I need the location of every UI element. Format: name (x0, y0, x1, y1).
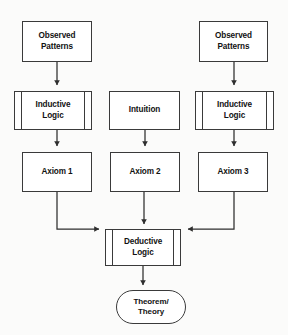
edge-axiom-3-to-deductive (188, 192, 234, 229)
node-label: Inductive Logic (33, 100, 72, 122)
node-label: Theorem/ Theory (131, 297, 170, 318)
node-deductive-logic: Deductive Logic (105, 229, 181, 266)
node-observed-patterns-right: Observed Patterns (199, 21, 268, 62)
node-theorem-theory: Theorem/ Theory (116, 290, 186, 324)
node-label: Axiom 3 (215, 167, 250, 178)
flowchart-diagram: Observed Patterns Observed Patterns Indu… (0, 0, 288, 335)
node-label: Axiom 1 (39, 167, 74, 178)
node-label: Inductive Logic (215, 100, 254, 122)
node-axiom-3: Axiom 3 (198, 152, 268, 192)
node-label: Axiom 2 (127, 167, 162, 178)
node-label: Observed Patterns (213, 31, 254, 53)
node-axiom-1: Axiom 1 (22, 152, 92, 192)
node-label: Intuition (127, 105, 162, 116)
edge-axiom-1-to-deductive (57, 192, 99, 229)
node-inductive-logic-right: Inductive Logic (195, 91, 274, 130)
node-axiom-2: Axiom 2 (110, 152, 180, 192)
node-inductive-logic-left: Inductive Logic (14, 91, 92, 130)
node-observed-patterns-left: Observed Patterns (22, 21, 92, 62)
node-label: Observed Patterns (37, 31, 78, 53)
node-label: Deductive Logic (122, 237, 164, 259)
node-intuition: Intuition (109, 91, 180, 130)
